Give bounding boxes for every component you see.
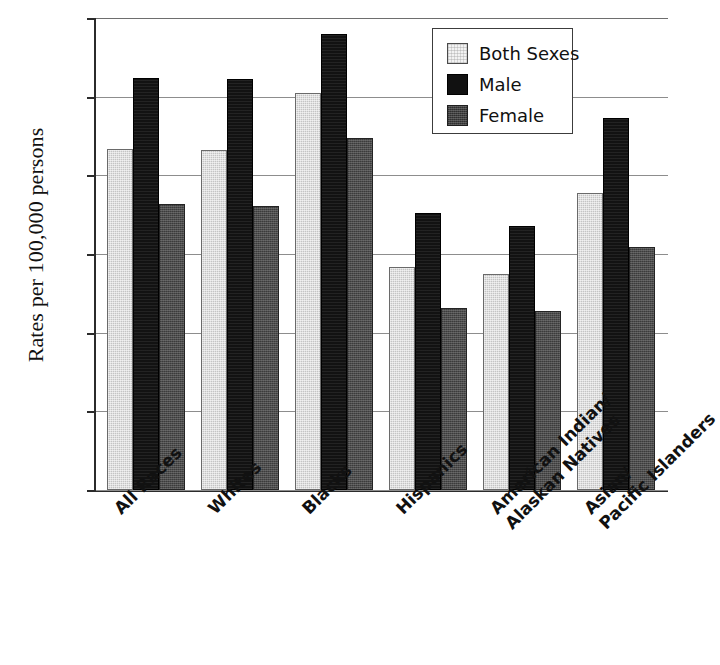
y-axis-tick: [87, 175, 96, 177]
y-axis-tick: [87, 18, 96, 20]
legend-item[interactable]: Female: [447, 100, 572, 131]
legend-swatch-icon: [447, 43, 468, 64]
bar[interactable]: [509, 226, 535, 490]
bar[interactable]: [133, 78, 159, 490]
bar-group: [107, 18, 185, 490]
bar[interactable]: [227, 79, 253, 490]
chart-legend: Both SexesMaleFemale: [432, 28, 573, 134]
y-axis-tick: [87, 490, 96, 492]
y-axis-tick: [87, 333, 96, 335]
gridline: [96, 490, 668, 491]
legend-label: Female: [479, 105, 544, 126]
legend-swatch-icon: [447, 74, 468, 95]
bar[interactable]: [321, 34, 347, 490]
bar-group: [201, 18, 279, 490]
bar[interactable]: [483, 274, 509, 490]
y-axis-title: Rates per 100,000 persons: [23, 105, 49, 385]
legend-item[interactable]: Male: [447, 69, 572, 100]
legend-item[interactable]: Both Sexes: [447, 38, 572, 69]
y-axis-tick: [87, 254, 96, 256]
legend-label: Both Sexes: [479, 43, 579, 64]
legend-label: Male: [479, 74, 522, 95]
bar[interactable]: [201, 150, 227, 490]
bar[interactable]: [295, 93, 321, 490]
bar[interactable]: [253, 206, 279, 490]
bar[interactable]: [347, 138, 373, 490]
bar[interactable]: [107, 149, 133, 490]
bar[interactable]: [415, 213, 441, 490]
legend-swatch-icon: [447, 105, 468, 126]
y-axis-tick: [87, 97, 96, 99]
y-axis-tick: [87, 411, 96, 413]
bar[interactable]: [389, 267, 415, 490]
bar-group: [295, 18, 373, 490]
